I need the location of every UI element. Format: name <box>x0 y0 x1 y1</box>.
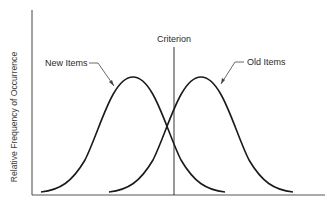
old-items-label: Old Items <box>247 57 286 67</box>
old-items-leader <box>221 62 244 84</box>
new-items-label: New Items <box>45 58 88 68</box>
new-items-curve <box>41 77 225 192</box>
old-items-curve <box>109 77 293 192</box>
criterion-label: Criterion <box>157 34 191 44</box>
signal-detection-chart: Criterion New Items Old Items Relative F… <box>0 0 335 213</box>
new-items-leader <box>89 63 114 86</box>
y-axis-label: Relative Frequency of Occurrence <box>9 52 19 183</box>
